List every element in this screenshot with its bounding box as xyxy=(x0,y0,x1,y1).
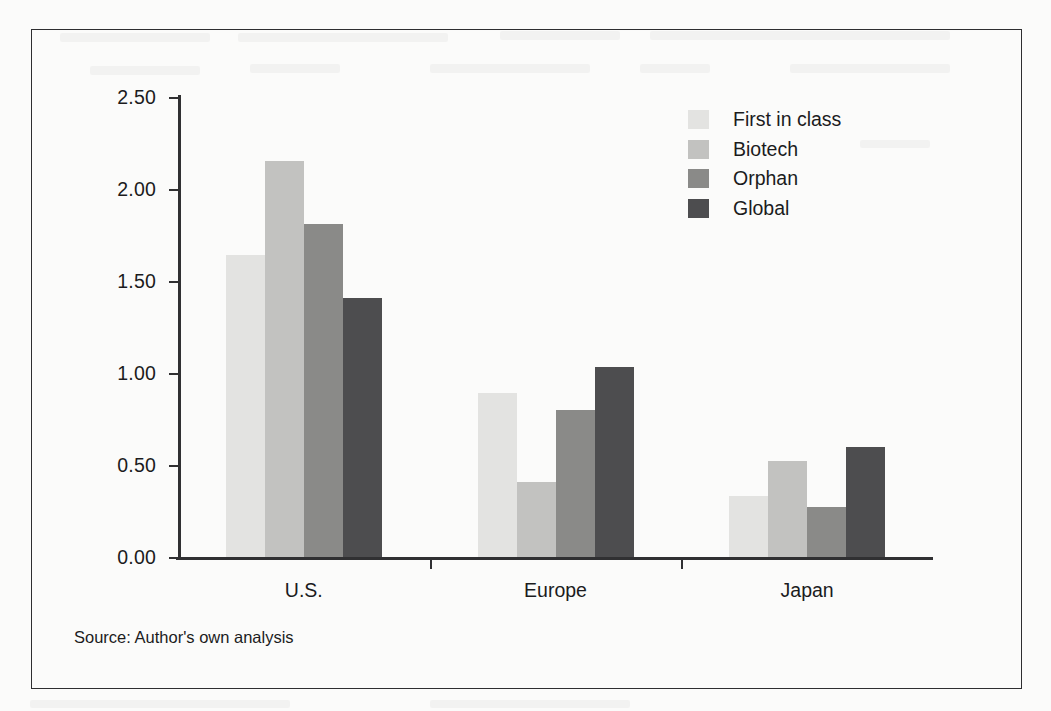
y-axis-tick: 0.00 xyxy=(169,557,178,559)
legend-label: Orphan xyxy=(733,167,798,190)
x-axis-category-label: U.S. xyxy=(285,579,323,602)
legend-item: Orphan xyxy=(688,164,841,194)
bar xyxy=(595,367,634,557)
bar xyxy=(517,482,556,557)
y-axis-tick-label: 2.00 xyxy=(117,178,156,201)
bar xyxy=(478,393,517,557)
legend-item: Global xyxy=(688,194,841,224)
legend-swatch xyxy=(688,110,709,129)
source-caption: Source: Author's own analysis xyxy=(74,628,294,647)
x-axis-tick xyxy=(681,558,683,569)
legend-label: Global xyxy=(733,197,789,220)
bar xyxy=(304,224,343,557)
bar xyxy=(807,507,846,557)
paper-bleed-artifact xyxy=(30,700,290,708)
bar xyxy=(265,161,304,557)
legend-swatch xyxy=(688,169,709,188)
y-axis-tick-label: 0.50 xyxy=(117,454,156,477)
bar xyxy=(846,447,885,557)
bar xyxy=(226,255,265,557)
legend-item: First in class xyxy=(688,105,841,135)
legend-label: First in class xyxy=(733,108,841,131)
y-axis-tick: 1.00 xyxy=(169,373,178,375)
legend-swatch xyxy=(688,140,709,159)
legend-item: Biotech xyxy=(688,135,841,165)
y-axis-line xyxy=(178,95,181,557)
paper-bleed-artifact xyxy=(430,700,630,708)
y-axis-tick: 0.50 xyxy=(169,465,178,467)
y-axis-tick-label: 0.00 xyxy=(117,546,156,569)
y-axis-tick-label: 2.50 xyxy=(117,86,156,109)
bar xyxy=(343,298,382,557)
y-axis-tick: 1.50 xyxy=(169,281,178,283)
bar xyxy=(556,410,595,557)
x-axis-category-label: Europe xyxy=(524,579,587,602)
y-axis-tick-label: 1.50 xyxy=(117,270,156,293)
bar xyxy=(768,461,807,557)
x-axis-line xyxy=(176,557,933,560)
figure-page: 0.000.501.001.502.002.50 U.S.EuropeJapan… xyxy=(0,0,1051,711)
y-axis-tick: 2.00 xyxy=(169,189,178,191)
legend-swatch xyxy=(688,199,709,218)
chart-legend: First in classBiotechOrphanGlobal xyxy=(688,105,841,223)
legend-label: Biotech xyxy=(733,138,798,161)
y-axis-tick: 2.50 xyxy=(169,97,178,99)
bar xyxy=(729,496,768,557)
x-axis-tick xyxy=(430,558,432,569)
y-axis-tick-label: 1.00 xyxy=(117,362,156,385)
x-axis-category-label: Japan xyxy=(781,579,834,602)
